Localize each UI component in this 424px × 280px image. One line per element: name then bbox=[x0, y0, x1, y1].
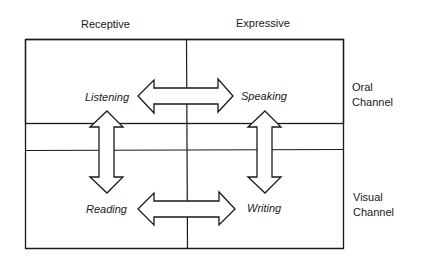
skill-writing: Writing bbox=[247, 202, 281, 214]
diagram-grid bbox=[0, 0, 424, 280]
row-label-visual-line1: Visual bbox=[353, 191, 383, 203]
row-label-oral-line1: Oral bbox=[352, 81, 373, 93]
row-label-oral-line2: Channel bbox=[352, 96, 393, 108]
horizontal-divider bbox=[26, 150, 344, 151]
column-label-receptive: Receptive bbox=[81, 18, 130, 30]
double-arrow-vertical-right bbox=[248, 111, 281, 193]
double-arrow-horizontal-bottom bbox=[138, 192, 235, 225]
double-arrow-horizontal-top bbox=[138, 79, 233, 113]
skill-reading: Reading bbox=[86, 203, 127, 215]
outer-box bbox=[26, 40, 344, 124]
outer-box-full bbox=[26, 40, 344, 124]
skill-listening: Listening bbox=[85, 91, 129, 103]
double-arrow-vertical-left bbox=[90, 111, 123, 193]
skill-speaking: Speaking bbox=[241, 90, 287, 102]
row-label-visual-line2: Channel bbox=[353, 206, 394, 218]
column-label-expressive: Expressive bbox=[236, 17, 290, 29]
